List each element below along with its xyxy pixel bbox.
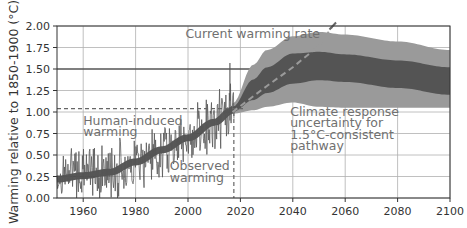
x-tick-label: 2000 (174, 205, 202, 218)
y-tick-label: 1.75 (26, 42, 51, 55)
y-axis-ticks: 0.000.250.500.751.001.251.501.752.00 (26, 20, 58, 205)
y-tick-label: 1.50 (26, 63, 51, 76)
y-tick-label: 0.50 (26, 149, 51, 162)
annotation-text: warming (170, 170, 224, 185)
uncertainty-bands (233, 32, 450, 114)
annotation-text: warming (83, 124, 137, 139)
y-tick-label: 2.00 (26, 20, 51, 33)
warming-chart: 19601980200020202040206020802100 0.000.2… (0, 0, 467, 228)
x-tick-label: 1960 (69, 205, 97, 218)
x-tick-label: 2080 (384, 205, 412, 218)
y-tick-label: 1.00 (26, 106, 51, 119)
annotation-text: Current warming rate (185, 26, 320, 41)
y-axis-label: Warming relative to 1850-1900 (°C) (6, 0, 21, 224)
x-tick-label: 2060 (331, 205, 359, 218)
annotation-text: pathway (290, 138, 344, 153)
x-tick-label: 2100 (436, 205, 464, 218)
y-tick-label: 0.00 (26, 192, 51, 205)
x-tick-label: 1980 (122, 205, 150, 218)
y-tick-label: 0.75 (26, 128, 51, 141)
y-tick-label: 1.25 (26, 85, 51, 98)
x-tick-label: 2040 (279, 205, 307, 218)
x-axis-ticks: 19601980200020202040206020802100 (69, 198, 464, 218)
x-tick-label: 2020 (226, 205, 254, 218)
y-tick-label: 0.25 (26, 171, 51, 184)
